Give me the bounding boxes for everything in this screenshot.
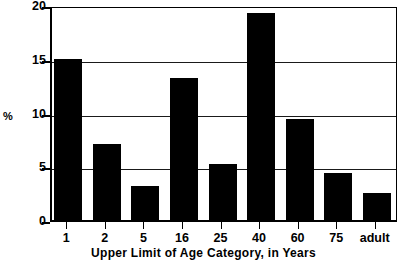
bar-60 <box>286 119 314 220</box>
y-tick-mark-20 <box>42 7 50 9</box>
x-tick-mark-75 <box>336 222 337 229</box>
bar-16 <box>170 78 198 220</box>
y-tick-label-15: 15 <box>20 53 46 67</box>
x-tick-mark-16 <box>182 222 183 229</box>
y-tick-mark-5 <box>42 168 50 170</box>
bar-40 <box>247 13 275 220</box>
bar-5 <box>131 186 159 220</box>
y-tick-mark-10 <box>42 115 50 117</box>
y-tick-label-5: 5 <box>20 160 46 174</box>
y-tick-label-10: 10 <box>20 107 46 121</box>
y-tick-mark-0 <box>42 222 50 224</box>
x-tick-mark-5 <box>143 222 144 229</box>
bar-chart: % 05101520 1251625406075adult Upper Limi… <box>0 0 407 262</box>
y-tick-label-0: 0 <box>20 214 46 228</box>
x-axis-title: Upper Limit of Age Category, in Years <box>0 246 407 260</box>
bar-25 <box>209 164 237 220</box>
x-tick-mark-25 <box>221 222 222 229</box>
x-tick-label-adult: adult <box>350 231 400 245</box>
x-tick-mark-adult <box>375 222 376 229</box>
y-axis-title: % <box>3 110 13 122</box>
bar-2 <box>93 144 121 220</box>
bar-adult <box>363 193 391 220</box>
y-tick-mark-15 <box>42 61 50 63</box>
bar-75 <box>324 173 352 220</box>
x-tick-mark-2 <box>105 222 106 229</box>
x-tick-mark-60 <box>298 222 299 229</box>
plot-area <box>50 7 397 222</box>
bar-1 <box>54 59 82 220</box>
bars-layer <box>52 8 396 220</box>
x-tick-mark-40 <box>259 222 260 229</box>
x-tick-mark-1 <box>66 222 67 229</box>
